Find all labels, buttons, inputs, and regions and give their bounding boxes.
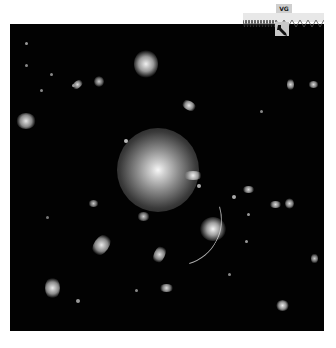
galaxy	[269, 201, 282, 208]
star	[40, 89, 43, 92]
astronomy-image	[10, 24, 324, 331]
star	[228, 273, 231, 276]
galaxy	[276, 300, 289, 311]
star	[260, 110, 263, 113]
galaxy	[94, 76, 104, 87]
galaxy	[180, 98, 198, 114]
star	[50, 73, 53, 76]
star	[124, 139, 128, 143]
star	[25, 64, 28, 67]
telescope-pointer-icon	[275, 23, 289, 37]
star	[247, 213, 250, 216]
galaxy	[45, 277, 60, 299]
galaxy	[159, 284, 174, 292]
galaxy	[311, 253, 318, 264]
star	[25, 42, 28, 45]
vg-label[interactable]: VG	[276, 4, 292, 13]
star	[46, 216, 49, 219]
star	[245, 240, 248, 243]
galaxy	[287, 78, 294, 91]
star	[72, 84, 75, 87]
galaxy	[285, 198, 294, 209]
galaxy	[16, 113, 36, 129]
star	[76, 299, 80, 303]
galaxy	[134, 50, 158, 78]
star	[135, 289, 138, 292]
galaxy	[308, 81, 319, 88]
zoom-strip[interactable]	[243, 13, 324, 22]
galaxy	[88, 231, 114, 259]
galaxy	[88, 200, 99, 207]
star	[232, 195, 236, 199]
galaxy	[242, 186, 255, 193]
pointer-tool-button[interactable]	[275, 22, 289, 36]
